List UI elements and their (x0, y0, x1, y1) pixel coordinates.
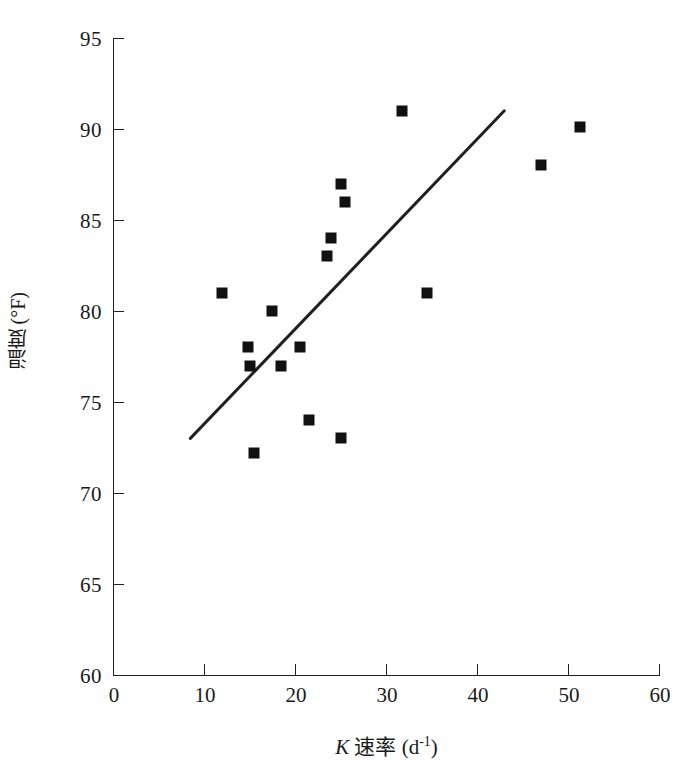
y-tick: 95 (113, 38, 124, 39)
data-point-marker (397, 105, 408, 116)
y-tick-label: 60 (80, 666, 102, 687)
y-tick-label: 85 (80, 211, 102, 232)
y-tick-label: 65 (80, 575, 102, 596)
y-tick: 65 (113, 584, 124, 585)
data-point-marker (276, 360, 287, 371)
y-tick-label: 70 (80, 484, 102, 505)
x-tick-label: 20 (286, 685, 307, 706)
x-tick: 40 (477, 664, 478, 675)
data-point-marker (340, 196, 351, 207)
x-axis-title-text: 速率 (d (349, 735, 419, 759)
x-tick: 10 (204, 664, 205, 675)
trend-line-svg (113, 38, 659, 675)
y-tick: 70 (113, 493, 124, 494)
data-point-marker (574, 122, 585, 133)
x-axis-title: K 速率 (d-1) (113, 730, 660, 760)
x-axis-title-exponent: -1 (419, 734, 431, 749)
x-axis-title-symbol: K (335, 735, 349, 759)
x-axis-title-close: ) (431, 735, 438, 759)
x-tick: 60 (659, 664, 660, 675)
data-point-marker (326, 233, 337, 244)
y-axis-line (113, 38, 114, 676)
data-point-marker (303, 415, 314, 426)
data-point-marker (335, 433, 346, 444)
x-tick-label: 10 (195, 685, 216, 706)
x-tick: 30 (386, 664, 387, 675)
scatter-chart-figure: 6065707580859095 0102030405060 温度 (°F) K… (0, 0, 698, 780)
data-point-marker (217, 287, 228, 298)
data-point-marker (535, 160, 546, 171)
x-tick: 50 (568, 664, 569, 675)
y-tick-label: 90 (80, 120, 102, 141)
x-axis-line (113, 675, 660, 676)
y-tick-label: 95 (80, 29, 102, 50)
trend-line (190, 111, 504, 439)
data-point-marker (267, 306, 278, 317)
data-point-marker (294, 342, 305, 353)
y-tick: 85 (113, 220, 124, 221)
plot-area: 6065707580859095 0102030405060 (113, 38, 659, 675)
x-tick-label: 60 (650, 685, 671, 706)
x-tick-label: 30 (377, 685, 398, 706)
x-tick-label: 0 (109, 685, 120, 706)
y-tick: 80 (113, 311, 124, 312)
y-axis-title: 温度 (°F) (8, 292, 42, 369)
y-tick-label: 80 (80, 302, 102, 323)
y-tick: 75 (113, 402, 124, 403)
data-point-marker (421, 287, 432, 298)
data-point-marker (242, 342, 253, 353)
data-point-marker (249, 447, 260, 458)
data-point-marker (244, 360, 255, 371)
x-tick: 20 (295, 664, 296, 675)
data-point-marker (335, 178, 346, 189)
x-tick-label: 50 (559, 685, 580, 706)
x-tick-label: 40 (468, 685, 489, 706)
data-point-marker (321, 251, 332, 262)
y-tick: 90 (113, 129, 124, 130)
y-tick-label: 75 (80, 393, 102, 414)
